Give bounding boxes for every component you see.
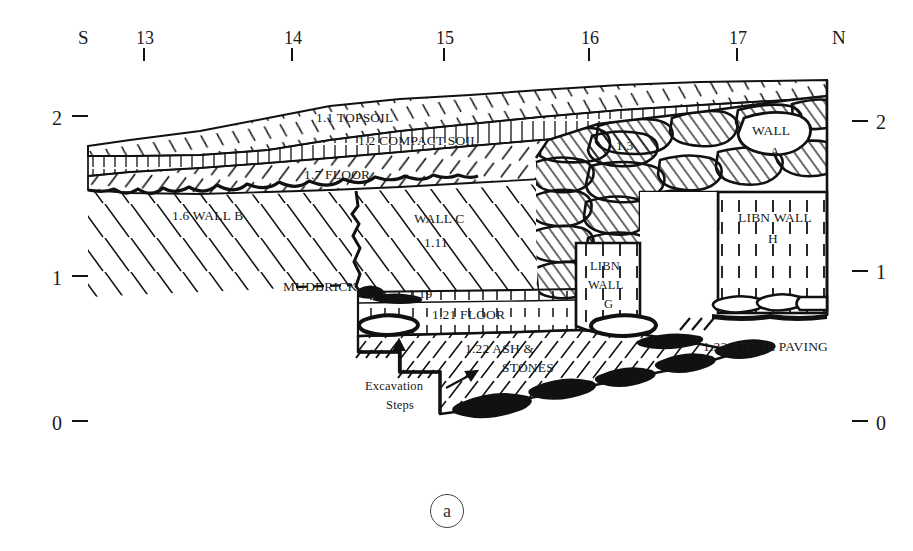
- label-wall-c-number: 1.11: [424, 236, 448, 250]
- label-libn-wall-g-line1: LIBN: [590, 260, 620, 273]
- label-wall-a-line2: A: [770, 145, 780, 159]
- label-excavation-steps-line2: Steps: [386, 399, 414, 412]
- section-drawing-figure: S N 13 14 15 16 17 2 1 0 2 1 0: [0, 0, 913, 551]
- label-1-22-ash-line2: STONES: [502, 361, 554, 375]
- label-1-3: 1.3: [616, 139, 633, 153]
- void-oval-left: [359, 315, 418, 335]
- label-1-1-topsoil: 1.1 TOPSOIL: [316, 111, 393, 125]
- label-wall-a-line1: WALL: [752, 124, 790, 138]
- section-linework: [0, 0, 913, 551]
- label-1-2-compact-soil: 1.2 COMPACT SOIL: [358, 134, 479, 148]
- ruler-ticks: [144, 48, 737, 61]
- label-mudbrick: MUDBRICK: [283, 280, 357, 294]
- figure-caption-a: a: [430, 494, 464, 528]
- label-libn-wall-g-line3: G: [604, 298, 613, 311]
- label-libn-wall-h-line2: H: [768, 232, 778, 246]
- label-1-6-wall-b: 1.6 WALL B: [172, 209, 243, 223]
- label-libn-wall-g-line2: WALL: [588, 279, 624, 292]
- label-1-21-floor: 1.21 FLOOR: [432, 308, 505, 322]
- label-excavation-steps-line1: Excavation: [365, 380, 423, 393]
- label-1-7-floor: 1.7 FLOOR: [304, 168, 370, 182]
- label-wall-c: WALL C: [414, 212, 465, 226]
- label-1-22-ash-line1: 1.22 ASH &: [465, 342, 534, 356]
- void-oval-right: [591, 315, 656, 336]
- label-libn-wall-h-line1: LIBN WALL: [738, 211, 812, 225]
- label-1-23-stone-paving: 1.23 STONE PAVING: [703, 340, 828, 354]
- label-1-19: 1.19: [408, 287, 432, 301]
